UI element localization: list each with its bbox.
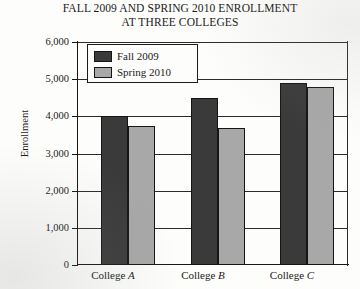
x-label-college-c-prefix: College xyxy=(270,269,304,281)
chart-page: FALL 2009 AND SPRING 2010 ENROLLMENT AT … xyxy=(0,0,360,289)
y-tick-label-3000: 3,000 xyxy=(45,149,69,160)
y-tick-label-1000: 1,000 xyxy=(45,223,69,234)
x-label-college-b-letter: B xyxy=(218,269,225,281)
chart-legend: Fall 2009 Spring 2010 xyxy=(87,44,198,83)
y-tick-label-5000: 5,000 xyxy=(45,74,69,85)
y-tick-label-2000: 2,000 xyxy=(45,186,69,197)
legend-label-fall-2009: Fall 2009 xyxy=(117,51,159,62)
chart-title-line-1: FALL 2009 AND SPRING 2010 ENROLLMENT xyxy=(0,1,360,15)
bar-college-c-spring-2010 xyxy=(307,87,334,265)
chart-title-line-2: AT THREE COLLEGES xyxy=(0,15,360,29)
legend-item-fall-2009: Fall 2009 xyxy=(94,49,197,64)
x-label-college-a-prefix: College xyxy=(91,269,125,281)
legend-item-spring-2010: Spring 2010 xyxy=(94,65,197,80)
x-label-college-a: College A xyxy=(68,269,158,282)
x-label-college-c-letter: C xyxy=(307,269,314,281)
legend-swatch-spring-2010 xyxy=(94,67,112,78)
bar-college-b-spring-2010 xyxy=(218,128,245,266)
x-label-college-b: College B xyxy=(158,269,248,282)
legend-swatch-fall-2009 xyxy=(94,51,112,62)
bar-college-a-spring-2010 xyxy=(128,126,155,265)
y-tick-label-4000: 4,000 xyxy=(45,111,69,122)
bar-college-b-fall-2009 xyxy=(191,98,218,265)
y-tick-label-6000: 6,000 xyxy=(45,37,69,48)
x-label-college-c: College C xyxy=(247,269,337,282)
bar-college-c-fall-2009 xyxy=(280,83,307,265)
y-axis-title: Enrollment xyxy=(19,74,30,194)
chart-title: FALL 2009 AND SPRING 2010 ENROLLMENT AT … xyxy=(0,1,360,29)
gridline-6000 xyxy=(78,42,348,43)
x-label-college-a-letter: A xyxy=(128,269,135,281)
bar-college-a-fall-2009 xyxy=(101,116,128,265)
legend-label-spring-2010: Spring 2010 xyxy=(117,67,171,78)
x-label-college-b-prefix: College xyxy=(181,269,215,281)
